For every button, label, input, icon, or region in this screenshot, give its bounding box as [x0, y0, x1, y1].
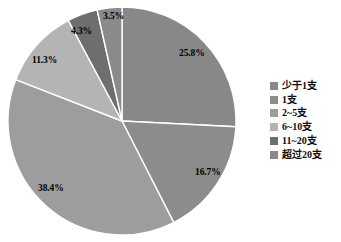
legend-item[interactable]: 超过20支 — [270, 148, 341, 162]
legend-swatch-icon — [270, 96, 278, 104]
pie-slice-label: 11.3% — [32, 56, 57, 66]
legend-item-label: 1支 — [282, 95, 297, 105]
legend-item-label: 6~10支 — [282, 122, 312, 132]
pie-plot-area: 25.8%16.7%38.4%11.3%4.3%3.5% — [0, 0, 250, 242]
chart-legend: 少于1支1支2~5支6~10支11~20支超过20支 — [270, 79, 341, 162]
legend-item[interactable]: 6~10支 — [270, 120, 341, 134]
legend-item[interactable]: 11~20支 — [270, 134, 341, 148]
pie-slice-label: 38.4% — [38, 184, 64, 194]
legend-swatch-icon — [270, 123, 278, 131]
legend-swatch-icon — [270, 151, 278, 159]
pie-chart-figure: 25.8%16.7%38.4%11.3%4.3%3.5% 少于1支1支2~5支6… — [0, 0, 341, 242]
pie-slice-label: 16.7% — [195, 168, 221, 178]
legend-item[interactable]: 2~5支 — [270, 107, 341, 121]
legend-item-label: 2~5支 — [282, 108, 307, 118]
pie-graphic — [0, 0, 250, 242]
legend-item-label: 少于1支 — [282, 81, 317, 91]
legend-swatch-icon — [270, 109, 278, 117]
pie-slice[interactable] — [122, 7, 236, 127]
pie-slice-label: 4.3% — [71, 27, 92, 37]
legend-swatch-icon — [270, 82, 278, 90]
legend-swatch-icon — [270, 137, 278, 145]
pie-slice-label: 25.8% — [179, 49, 205, 59]
pie-slice-label: 3.5% — [103, 12, 124, 22]
legend-item-label: 超过20支 — [282, 150, 322, 160]
legend-item[interactable]: 1支 — [270, 93, 341, 107]
legend-item[interactable]: 少于1支 — [270, 79, 341, 93]
legend-item-label: 11~20支 — [282, 136, 317, 146]
